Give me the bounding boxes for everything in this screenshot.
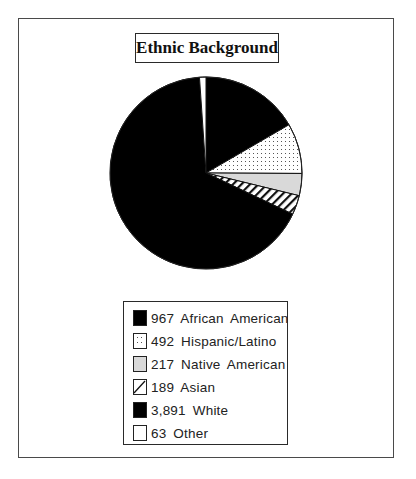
legend-item-african-american: 967 African American — [133, 309, 289, 327]
swatch-black-icon — [133, 310, 147, 326]
swatch-gray-icon — [133, 356, 147, 372]
legend-item-white: 3,891 White — [133, 401, 228, 419]
swatch-black-icon — [133, 402, 147, 418]
legend-item-native-american: 217 Native American — [133, 355, 285, 373]
legend-item-asian: 189 Asian — [133, 378, 215, 396]
pie-slices — [110, 77, 302, 269]
legend: 967 African American 492 Hispanic/Latino… — [123, 301, 288, 445]
swatch-white-icon — [133, 425, 147, 441]
swatch-hatch-icon — [133, 379, 147, 395]
legend-item-hispanic-latino: 492 Hispanic/Latino — [133, 332, 276, 350]
legend-item-other: 63 Other — [133, 424, 208, 442]
swatch-dotted-icon — [133, 333, 147, 349]
